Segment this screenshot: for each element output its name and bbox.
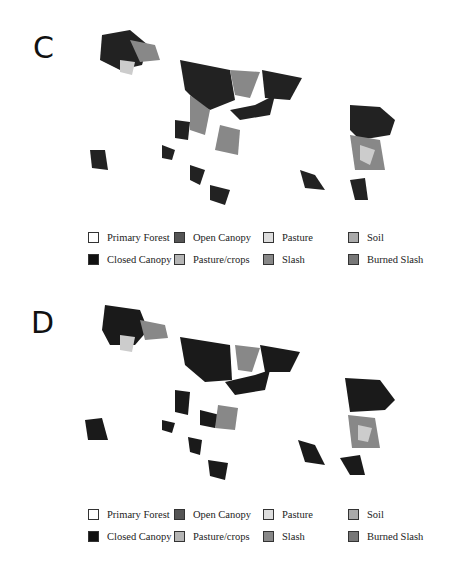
- legend-item-pasture-crops: Pasture/crops: [174, 531, 250, 542]
- legend-item-pasture: Pasture: [263, 509, 313, 520]
- swatch-soil: [348, 232, 359, 243]
- swatch-burned-slash: [348, 254, 359, 265]
- swatch-soil: [348, 509, 359, 520]
- swatch-primary-forest: [88, 232, 99, 243]
- panel-label-c: C: [33, 33, 54, 63]
- land-cover-map-d: [80, 300, 420, 510]
- swatch-closed-canopy: [88, 254, 99, 265]
- legend-item-closed-canopy: Closed Canopy: [88, 531, 171, 542]
- legend-item-closed-canopy: Closed Canopy: [88, 254, 171, 265]
- swatch-primary-forest: [88, 509, 99, 520]
- legend-item-slash: Slash: [263, 531, 305, 542]
- land-cover-map-c: [80, 10, 420, 220]
- legend-item-burned-slash: Burned Slash: [348, 254, 423, 265]
- legend-item-open-canopy: Open Canopy: [174, 509, 251, 520]
- swatch-open-canopy: [174, 509, 185, 520]
- legend-item-pasture-crops: Pasture/crops: [174, 254, 250, 265]
- legend-item-soil: Soil: [348, 509, 384, 520]
- legend-item-pasture: Pasture: [263, 232, 313, 243]
- swatch-slash: [263, 531, 274, 542]
- swatch-pasture: [263, 509, 274, 520]
- legend-item-slash: Slash: [263, 254, 305, 265]
- legend-d: Primary Forest Open Canopy Pasture Soil …: [88, 509, 428, 553]
- swatch-closed-canopy: [88, 531, 99, 542]
- legend-item-burned-slash: Burned Slash: [348, 531, 423, 542]
- panel-label-d: D: [31, 308, 54, 338]
- swatch-burned-slash: [348, 531, 359, 542]
- swatch-pasture-crops: [174, 254, 185, 265]
- legend-item-open-canopy: Open Canopy: [174, 232, 251, 243]
- swatch-open-canopy: [174, 232, 185, 243]
- swatch-slash: [263, 254, 274, 265]
- legend-item-primary-forest: Primary Forest: [88, 232, 170, 243]
- legend-item-soil: Soil: [348, 232, 384, 243]
- legend-c: Primary Forest Open Canopy Pasture Soil …: [88, 232, 428, 276]
- legend-item-primary-forest: Primary Forest: [88, 509, 170, 520]
- swatch-pasture: [263, 232, 274, 243]
- swatch-pasture-crops: [174, 531, 185, 542]
